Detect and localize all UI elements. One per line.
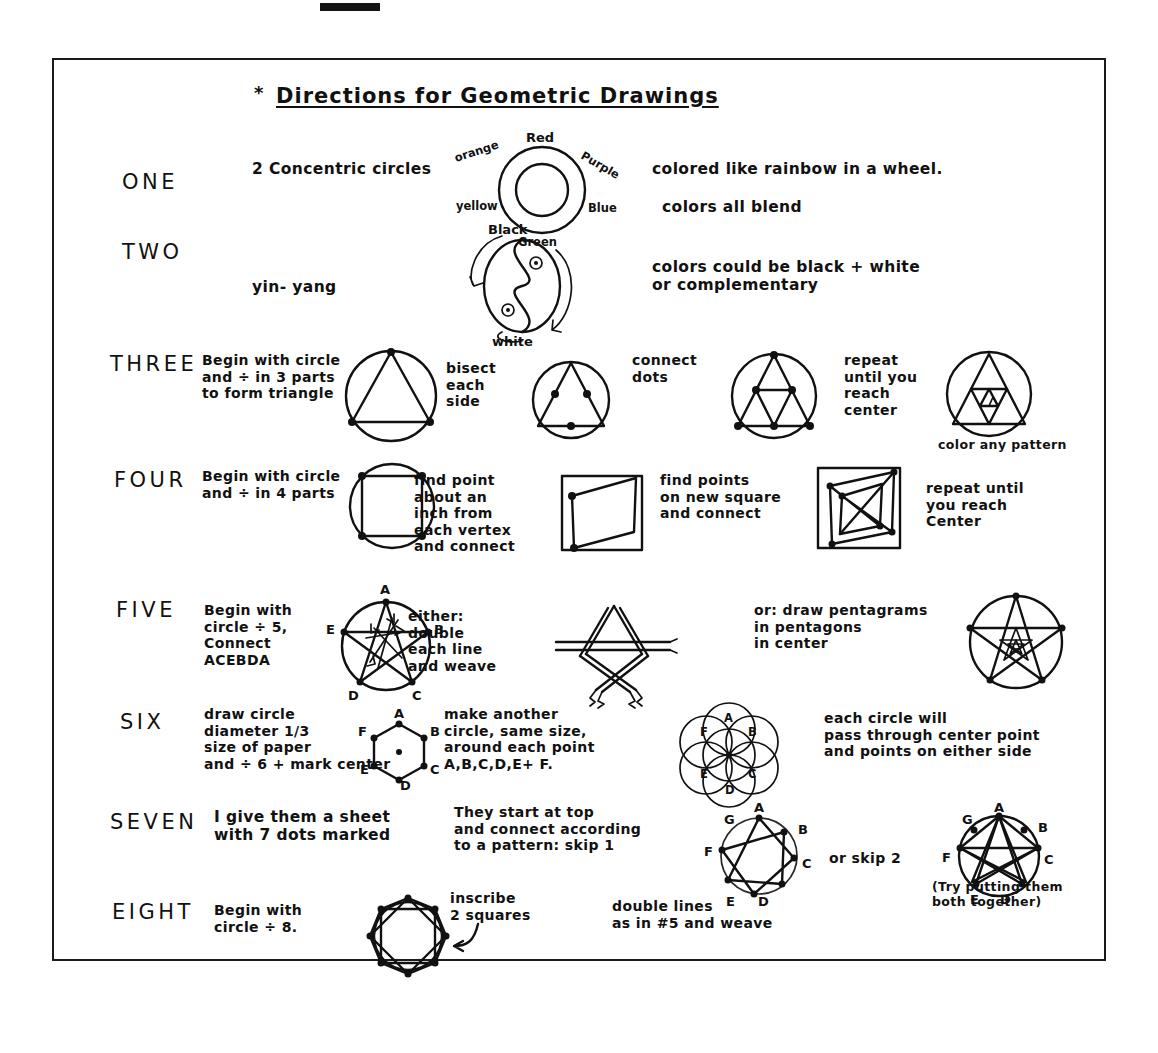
row-one-note-2: colored like rainbow in a wheel. (652, 160, 943, 178)
hexagon-label-d: D (400, 778, 411, 793)
row-two-note-1: yin- yang (252, 278, 337, 296)
figure-triangle-step2 (524, 356, 618, 444)
row-one-note-1: 2 Concentric circles (252, 160, 431, 178)
yinyang-label-white: white (492, 334, 533, 349)
figure-square-step2 (554, 468, 650, 558)
worksheet-page: * Directions for Geometric Drawings ONE … (52, 58, 1106, 961)
page-title: Directions for Geometric Drawings (276, 84, 719, 109)
row-seven-note-1: I give them a sheet with 7 dots marked (214, 808, 390, 845)
heptagram1-label-a: A (754, 800, 764, 815)
row-three-note-1: Begin with circle and ÷ in 3 parts to fo… (202, 352, 341, 402)
hexagon-label-c: C (430, 762, 440, 777)
yinyang-label-black: Black (488, 222, 528, 237)
row-eight-note-1: Begin with circle ÷ 8. (214, 902, 302, 935)
figure-heptagram-skip2: A B C D E F G (944, 806, 1054, 906)
row-one-note-3: colors all blend (662, 198, 802, 216)
heptagram2-label-b: B (1038, 820, 1048, 835)
row-label-seven: SEVEN (110, 810, 197, 835)
figure-pentagram-labeled: A B C D E (326, 584, 446, 704)
row-six-note-3: each circle will pass through center poi… (824, 710, 1040, 760)
flower-label-e: E (700, 767, 708, 781)
row-four-note-3: find points on new square and connect (660, 472, 781, 522)
heptagram2-label-g: G (962, 812, 973, 827)
figure-triangle-step3 (722, 348, 826, 446)
pentagram-label-c: C (412, 688, 422, 703)
heptagram2-label-f: F (942, 850, 951, 865)
row-five-note-3: or: draw pentagrams in pentagons in cent… (754, 602, 928, 652)
row-label-two: TWO (122, 240, 183, 265)
figure-heptagram-skip1: A B C D E F G (704, 806, 814, 906)
row-seven-note-2: They start at top and connect according … (454, 804, 641, 854)
hexagon-label-f: F (358, 724, 367, 739)
wheel-label-blue: Blue (588, 201, 617, 215)
figure-pentagram-nested (956, 584, 1076, 700)
hexagon-label-b: B (430, 724, 440, 739)
figure-yin-yang: Black white (444, 228, 604, 348)
heptagram1-label-b: B (798, 822, 808, 837)
heptagram1-label-c: C (802, 856, 812, 871)
heptagram2-label-e: E (970, 892, 979, 907)
row-label-six: SIX (120, 710, 164, 735)
figure-woven-star (544, 598, 684, 708)
heptagram2-label-c: C (1044, 852, 1054, 867)
wheel-label-red: Red (526, 130, 554, 145)
page-title-text: Directions for Geometric Drawings (276, 84, 719, 108)
figure-flower-of-life: A B C D E F (674, 700, 784, 810)
hexagon-label-a: A (394, 706, 404, 721)
wheel-label-purple: Purple (579, 148, 623, 181)
wheel-label-yellow: yellow (456, 199, 498, 213)
flower-label-b: B (748, 725, 757, 739)
pentagram-label-a: A (380, 582, 390, 597)
pentagram-label-e: E (326, 622, 335, 637)
row-label-one: ONE (122, 170, 178, 195)
row-label-four: FOUR (114, 468, 187, 493)
heptagram1-label-f: F (704, 844, 713, 859)
title-asterisk: * (254, 82, 264, 103)
top-black-bar (320, 3, 380, 11)
row-five-note-1: Begin with circle ÷ 5, Connect ACEBDA (204, 602, 292, 668)
heptagram2-label-d: D (1000, 892, 1011, 907)
row-four-note-4: repeat until you reach Center (926, 480, 1024, 530)
hexagon-label-e: E (360, 762, 369, 777)
figure-square-step1 (342, 458, 442, 554)
row-two-note-2: colors could be black + white or complem… (652, 258, 920, 295)
heptagram2-label-a: A (994, 800, 1004, 815)
flower-label-c: C (748, 767, 756, 781)
row-label-three: THREE (110, 352, 197, 377)
row-label-eight: EIGHT (112, 900, 194, 925)
figure-hexagon-labeled: A B C D E F (354, 708, 444, 792)
flower-label-f: F (700, 725, 708, 739)
row-four-note-1: Begin with circle and ÷ in 4 parts (202, 468, 341, 501)
row-eight-note-3: double lines as in #5 and weave (612, 898, 773, 931)
row-three-note-4: repeat until you reach center (844, 352, 917, 418)
row-three-note-3: connect dots (632, 352, 697, 385)
row-label-five: FIVE (116, 598, 176, 623)
flower-label-d: D (725, 783, 735, 797)
flower-label-a: A (724, 711, 733, 725)
figure-triangle-nested (934, 348, 1044, 444)
row-three-note-2: bisect each side (446, 360, 496, 410)
row-seven-note-3: or skip 2 (829, 850, 901, 867)
figure-triangle-step1 (336, 346, 446, 446)
heptagram1-label-g: G (724, 812, 735, 827)
row-six-note-2: make another circle, same size, around e… (444, 706, 595, 772)
wheel-label-orange: orange (453, 137, 501, 164)
pentagram-label-b: B (434, 622, 444, 637)
figure-octagram (354, 884, 464, 988)
pentagram-label-d: D (348, 688, 359, 703)
figure-square-step3 (810, 460, 910, 556)
